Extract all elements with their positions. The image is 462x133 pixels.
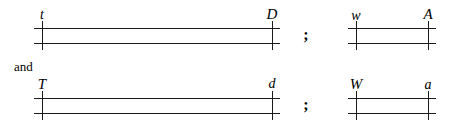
long-track-top-rail-upper bbox=[34, 28, 280, 29]
short-track-bottom-left-label: W bbox=[350, 77, 363, 92]
long-track-bottom-left-label: T bbox=[38, 77, 46, 92]
long-track-top-right-tick bbox=[272, 21, 273, 50]
short-track-bottom-rail-lower bbox=[348, 113, 436, 114]
long-track-top-rail-lower bbox=[34, 43, 280, 44]
short-track-bottom-right-tick bbox=[428, 91, 429, 120]
short-track-top-rail-upper bbox=[348, 28, 436, 29]
short-track-top-right-tick bbox=[428, 21, 429, 50]
short-track-top-left-tick bbox=[356, 21, 357, 50]
long-track-bottom-left-tick bbox=[42, 91, 43, 120]
short-track-bottom-right-label: a bbox=[425, 78, 432, 92]
long-track-top-right-label: D bbox=[267, 7, 278, 22]
conjunction-and: and bbox=[14, 60, 33, 73]
long-track-bottom-right-label: d bbox=[269, 77, 276, 91]
separator-top: ; bbox=[303, 27, 308, 43]
short-track-bottom-left-tick bbox=[356, 91, 357, 120]
long-track-bottom-rail-lower bbox=[34, 113, 280, 114]
short-track-top-rail-lower bbox=[348, 43, 436, 44]
short-track-top-left-label: w bbox=[351, 9, 360, 23]
long-track-bottom-rail-upper bbox=[34, 98, 280, 99]
short-track-top-right-label: A bbox=[423, 7, 432, 22]
separator-bottom: ; bbox=[303, 97, 308, 113]
short-track-bottom-rail-upper bbox=[348, 98, 436, 99]
long-track-bottom-right-tick bbox=[272, 91, 273, 120]
long-track-top-left-label: t bbox=[40, 8, 44, 22]
long-track-top-left-tick bbox=[42, 21, 43, 50]
interval-diagram: t D ; w A and T d ; W a bbox=[0, 0, 462, 133]
